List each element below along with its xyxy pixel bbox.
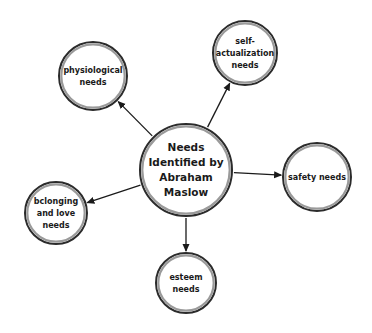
central-concept-node: NeedsIdentified byAbrahamMaslow <box>140 124 232 216</box>
node-label-line: physiological <box>63 66 122 75</box>
node-label-line: bclonging <box>34 197 79 206</box>
arrow-center-to-safety <box>234 173 281 176</box>
arrow-center-to-self-actualization <box>208 83 230 127</box>
node-label-line: and love <box>37 209 76 218</box>
node-label-line: actualization <box>216 49 275 58</box>
circle-outline <box>140 124 232 216</box>
node-label-line: Identified by <box>148 156 223 168</box>
node-physiological: physiologicalneeds <box>59 42 127 110</box>
node-label-line: needs <box>79 78 106 87</box>
node-label-line: Needs <box>168 141 205 153</box>
nodes: NeedsIdentified byAbrahamMaslowphysiolog… <box>25 21 351 313</box>
node-label-line: needs <box>172 285 199 294</box>
node-label-line: Maslow <box>164 186 209 198</box>
arrow-center-to-physiological <box>118 102 152 136</box>
node-label-line: esteem <box>169 273 202 282</box>
node-self-actualization: self-actualizationneeds <box>213 21 277 85</box>
circle-outline <box>156 253 216 313</box>
circle-outline <box>59 42 127 110</box>
arrow-center-to-belonging <box>87 185 140 203</box>
node-label-line: needs <box>231 61 258 70</box>
node-belonging: bclongingand loveneeds <box>25 182 87 244</box>
node-label-line: safety needs <box>288 173 346 182</box>
node-label-line: self- <box>235 37 255 46</box>
maslow-needs-diagram: NeedsIdentified byAbrahamMaslowphysiolog… <box>0 0 372 333</box>
node-label-line: needs <box>42 221 69 230</box>
node-safety: safety needs <box>283 143 351 211</box>
node-esteem: esteemneeds <box>156 253 216 313</box>
node-label-line: Abraham <box>159 171 212 183</box>
